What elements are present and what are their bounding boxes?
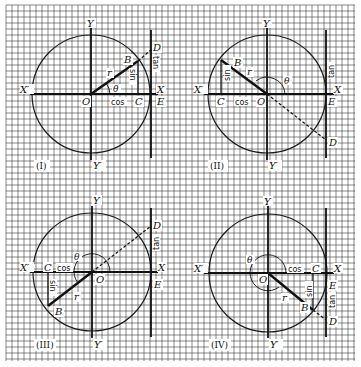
label-tan: tan [151,56,160,69]
label-Y-prime: Y′ [93,160,103,171]
label-theta: θ [113,84,119,94]
label-E: E [156,96,165,107]
label-X: X [157,262,166,273]
label-Y-prime: Y′ [270,339,280,350]
label-D: D [152,220,161,231]
label-tan: tan [328,295,337,308]
label-O: O [259,274,267,285]
label-B: B [233,57,241,68]
label-tan: tan [152,237,161,250]
label-X: X [333,263,342,274]
label-sin: sin [305,286,314,297]
label-C: C [135,96,143,107]
label-D: D [328,137,337,148]
label-O: O [257,96,265,107]
label-theta: θ [284,76,290,86]
label-E: E [327,96,336,107]
label-Y-prime: Y′ [94,339,104,350]
label-E: E [328,280,337,291]
label-D: D [152,42,161,53]
panel-label-IV: (IV) [211,340,228,350]
panel-label-III: (III) [36,340,54,350]
label-sin: sin [223,70,232,81]
panel-label-I: (I) [36,161,47,171]
label-tan: tan [327,65,336,78]
theta-arc [256,77,285,94]
label-E: E [153,279,162,290]
label-cos: cos [235,98,248,107]
label-O: O [96,274,104,285]
panel-quadrant-3: Y Y′ X′ X O B C D E r θ cos sin tan (III… [19,195,167,351]
label-theta: θ [74,252,80,262]
label-sin: sin [48,280,57,291]
label-B: B [123,54,131,65]
panel-quadrant-4: Y Y′ X′ X O B C D E r θ cos sin tan (IV) [193,196,343,351]
label-sin: sin [128,69,137,80]
label-X-prime: X′ [19,262,30,273]
label-cos: cos [288,265,301,274]
label-C: C [217,96,225,107]
label-Y-prime: Y′ [269,160,279,171]
trig-quadrant-figure: Y Y′ X′ X O B C D E r θ cos sin tan (I) [0,0,361,367]
label-B: B [300,302,308,313]
panel-label-II: (II) [210,161,224,171]
label-X: X [333,84,342,95]
label-C: C [44,262,52,273]
label-C: C [312,263,320,274]
label-X-prime: X′ [193,263,204,274]
label-X-prime: X′ [19,84,30,95]
label-X: X [156,84,165,95]
label-D: D [328,316,337,327]
label-cos: cos [57,264,70,273]
label-cos: cos [111,98,124,107]
label-B: B [54,306,62,317]
label-O: O [82,96,90,107]
label-X-prime: X′ [193,84,204,95]
label-theta: θ [247,255,253,265]
